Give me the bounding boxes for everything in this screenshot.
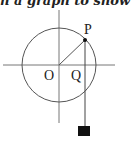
hanging-block bbox=[78, 126, 90, 136]
label-Q: Q bbox=[71, 68, 81, 83]
radius-OP bbox=[59, 40, 85, 65]
label-P: P bbox=[84, 22, 92, 37]
point-P bbox=[83, 38, 87, 42]
circle-diagram: P O Q bbox=[0, 0, 133, 141]
label-O: O bbox=[44, 68, 54, 83]
